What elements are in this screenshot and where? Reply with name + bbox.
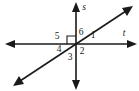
line-diagonal [13,6,133,86]
line-diagonal-segment [20,11,126,81]
line-s-arrow-up [72,2,80,12]
angle-label-6: 6 [79,27,84,37]
line-t-arrow-left [5,40,15,48]
angle-label-5: 5 [55,31,60,41]
right-angle-icon [67,36,76,44]
line-t-arrow-right [127,40,137,48]
line-s-arrow-down [72,80,80,90]
angle-label-2: 2 [80,46,85,56]
angle-label-3: 3 [68,52,73,62]
line-diagonal-arrow-upper-right [122,6,133,16]
geometry-diagram: s t 1 2 3 4 5 6 [0,0,139,91]
line-diagonal-arrow-lower-left [13,76,24,86]
line-label-t: t [123,28,126,38]
angle-label-4: 4 [57,44,62,54]
line-label-s: s [82,2,86,12]
figure-canvas: s t 1 2 3 4 5 6 [0,0,139,91]
angle-label-1: 1 [91,30,96,40]
